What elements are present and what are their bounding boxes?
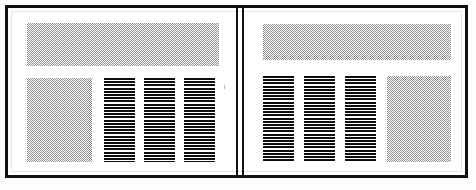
gutter-rule-left [236, 8, 238, 175]
left-text-column-2 [144, 78, 175, 162]
right-text-column-3 [345, 76, 376, 162]
page-panel-left[interactable] [11, 11, 236, 172]
right-text-column-2 [304, 76, 335, 162]
left-headline-band [27, 23, 219, 66]
left-figure-panel [27, 78, 92, 162]
left-text-column-3 [184, 78, 215, 162]
right-headline-band [263, 24, 451, 60]
right-figure-panel [387, 76, 451, 162]
scan-page [0, 0, 476, 190]
left-text-column-1 [104, 78, 135, 162]
page-panel-right[interactable] [244, 11, 462, 172]
left-scan-speck-1 [224, 85, 225, 89]
page-gutter [236, 8, 244, 175]
gutter-rule-right [242, 8, 244, 175]
document-frame [5, 5, 468, 178]
right-text-column-1 [263, 76, 294, 162]
